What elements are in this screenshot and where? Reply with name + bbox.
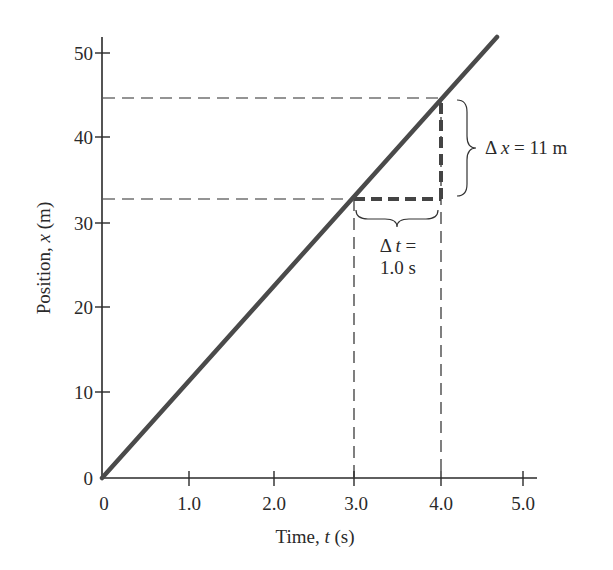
x-tick-label: 4.0: [429, 493, 453, 514]
x-tick-labels: 0 1.0 2.0 3.0 4.0 5.0: [99, 493, 535, 514]
x-tick-label: 3.0: [344, 493, 368, 514]
delta-t-label-line2: 1.0 s: [380, 257, 416, 278]
y-tick-label: 20: [74, 297, 93, 318]
x-tick-label: 2.0: [262, 493, 286, 514]
x-tick-label: 1.0: [177, 493, 201, 514]
delta-x-label: Δ x = 11 m: [485, 137, 568, 158]
y-tick-label: 50: [74, 43, 93, 64]
position-line: [102, 37, 497, 478]
y-axis-title: Position, x (m): [33, 202, 55, 314]
x-axis-title: Time, t (s): [275, 526, 354, 548]
x-tick-label: 0: [99, 493, 109, 514]
y-tick-label: 40: [74, 127, 93, 148]
position-time-chart: 50 40 30 20 10 0 0 1.0 2.0 3.0 4.0 5.0 T…: [0, 0, 613, 570]
delta-t-label-line1: Δ t =: [380, 235, 417, 256]
y-tick-label: 0: [84, 468, 94, 489]
y-tick-label: 30: [74, 213, 93, 234]
y-tick-labels: 50 40 30 20 10 0: [74, 43, 93, 489]
delta-t-brace: [356, 210, 438, 227]
delta-x-brace: [457, 100, 476, 196]
y-tick-label: 10: [74, 382, 93, 403]
x-tick-label: 5.0: [511, 493, 535, 514]
